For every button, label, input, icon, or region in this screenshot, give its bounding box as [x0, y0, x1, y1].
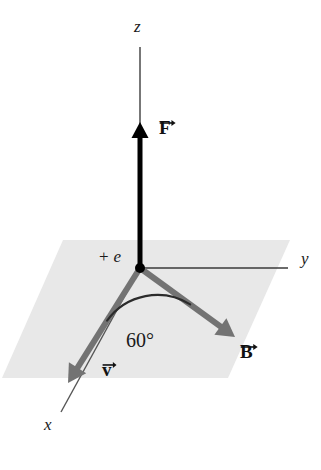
vector-F-label: F	[159, 117, 171, 139]
charge-label: +e	[99, 248, 121, 265]
charge-symbol: e	[114, 247, 122, 266]
vector-F-arrowhead	[132, 122, 149, 138]
physics-vector-diagram: z y x +e 60° F B	[0, 0, 321, 470]
diagram-canvas	[0, 0, 321, 470]
z-axis-label: z	[134, 18, 141, 35]
angle-label: 60°	[126, 330, 154, 350]
vector-arrow-icon	[240, 342, 258, 350]
charge-point	[135, 263, 145, 273]
vector-arrow-icon	[102, 360, 117, 368]
vector-v-label: v	[102, 359, 112, 381]
charge-sign: +	[99, 247, 109, 266]
x-axis-label: x	[44, 416, 52, 433]
vector-B-label: B	[240, 341, 253, 363]
vector-arrow-icon	[159, 118, 176, 126]
y-axis-label: y	[301, 250, 309, 267]
